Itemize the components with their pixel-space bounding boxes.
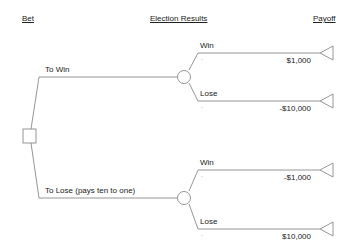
payoff-value: $1,000 (251, 56, 311, 65)
header-payoff: Payoff (313, 14, 336, 23)
chance1-lose-diag (189, 83, 198, 101)
chance2-lose-diag (189, 204, 198, 229)
chance-node-circle[interactable] (178, 192, 191, 205)
payoff-value: -$1,000 (251, 173, 311, 182)
outcome-label-win: Win (200, 41, 214, 50)
outcome-label-lose: Lose (200, 89, 217, 98)
header-election-results: Election Results (150, 14, 207, 23)
outcome-probability: . (201, 231, 203, 237)
chance1-win-diag (189, 53, 198, 70)
header-bet: Bet (22, 14, 34, 23)
terminal-node-triangle[interactable] (320, 222, 333, 236)
terminal-node-triangle[interactable] (320, 163, 333, 177)
payoff-value: $10,000 (251, 232, 311, 241)
terminal-node-triangle[interactable] (320, 46, 333, 60)
terminal-node-triangle[interactable] (320, 94, 333, 108)
decision-tree-diagram (0, 0, 358, 250)
decision-node-square[interactable] (23, 129, 36, 143)
outcome-label-win: Win (200, 158, 214, 167)
branch-line-to-lose (31, 143, 39, 198)
outcome-label-lose: Lose (200, 217, 217, 226)
payoff-value: -$10,000 (251, 104, 311, 113)
outcome-probability: . (201, 172, 203, 178)
branch-label-to-win: To Win (45, 65, 69, 74)
branch-line-to-win (31, 77, 39, 129)
branch-label-to-lose: To Lose (pays ten to one) (45, 186, 135, 195)
outcome-probability: . (201, 55, 203, 61)
chance2-win-diag (189, 170, 198, 191)
chance-node-circle[interactable] (178, 71, 191, 84)
outcome-probability: . (201, 103, 203, 109)
